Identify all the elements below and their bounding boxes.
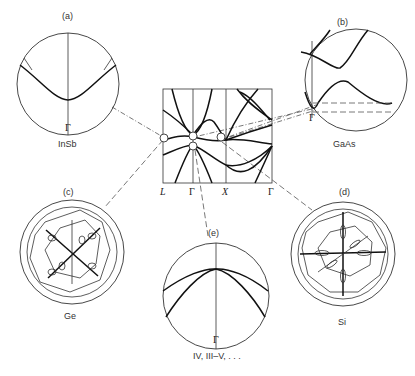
panel-a-gamma: Γ [65, 122, 71, 133]
panel-e-generic: (e) Γ IV, III–V, . . . [163, 228, 269, 361]
panel-d-label: (d) [339, 187, 350, 197]
panel-c-material: Ge [64, 311, 76, 321]
center-band-panel: L Γ X Γ [159, 89, 274, 197]
axis-label-L: L [159, 186, 166, 197]
panel-e-material: IV, III–V, . . . [193, 351, 241, 361]
panel-b-material: GaAs [333, 139, 356, 149]
axis-label-gamma-1: Γ [189, 186, 195, 197]
connector-lines [105, 105, 316, 236]
panel-b-label: (b) [337, 17, 348, 27]
panel-a-material: InSb [58, 139, 77, 149]
panel-d-material: Si [338, 317, 346, 327]
panel-c-ge: (c) Ge [20, 187, 124, 321]
panel-b-gaas: (b) Γ GaAs [301, 17, 407, 149]
panel-a-label: (a) [62, 11, 73, 21]
axis-label-gamma-2: Γ [268, 186, 274, 197]
panel-e-gamma: Γ [213, 334, 219, 345]
panel-e-label: (e) [208, 228, 219, 238]
panel-d-si: (d) Si [291, 187, 395, 327]
band-structure-figure: L Γ X Γ (a) Γ InSb (b) Γ GaAs (c) [0, 0, 415, 376]
axis-label-X: X [221, 186, 229, 197]
panel-c-label: (c) [63, 187, 74, 197]
panel-b-gamma: Γ [309, 112, 315, 123]
panel-a-insb: (a) Γ InSb [17, 11, 119, 149]
